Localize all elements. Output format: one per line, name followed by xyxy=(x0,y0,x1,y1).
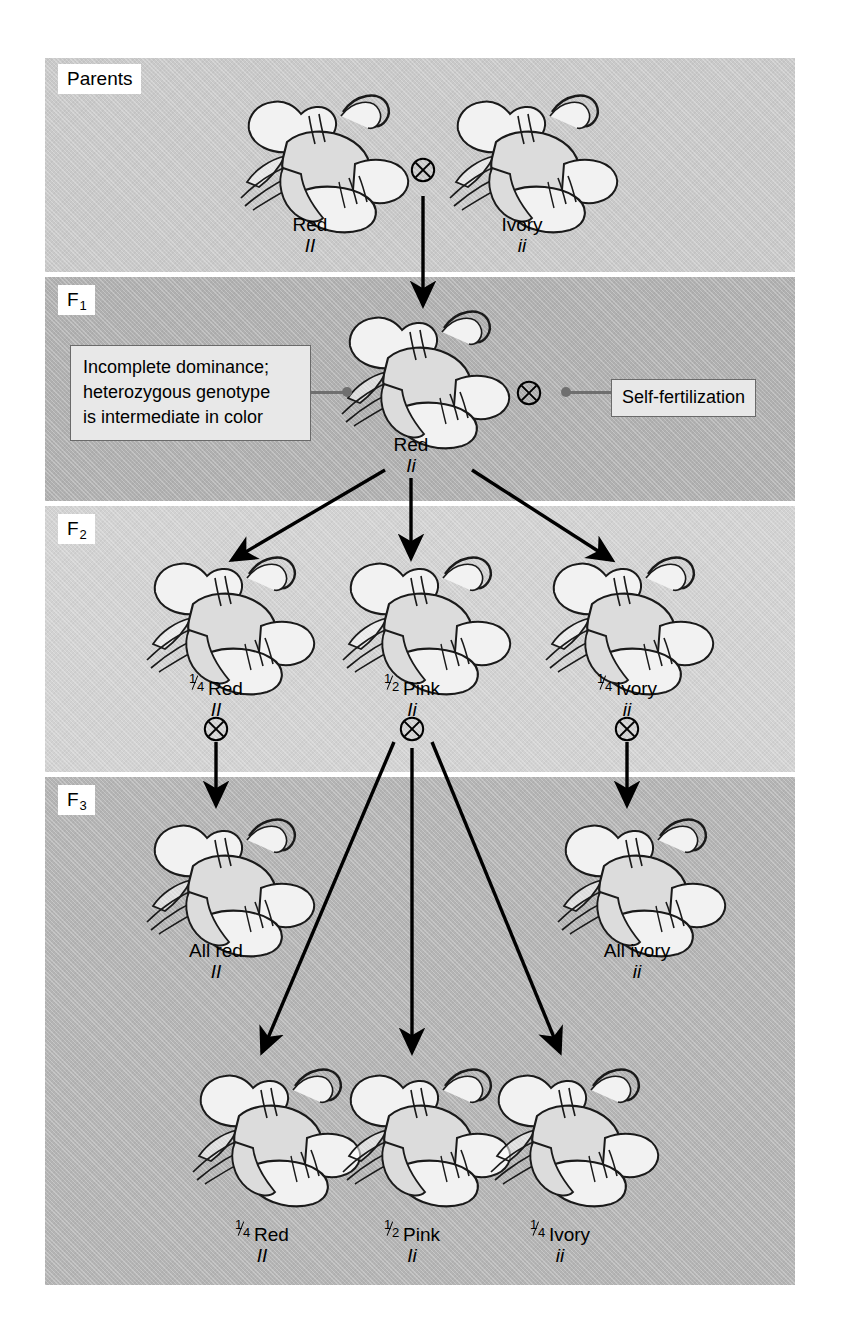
fraction-one-quarter: 14 xyxy=(235,1222,252,1241)
caption-f2-red: 14Red II xyxy=(189,676,243,720)
fraction-denominator: 2 xyxy=(392,680,399,693)
generation-label-f3-text: F xyxy=(67,789,79,810)
caption-parent-ivory-phenotype: Ivory xyxy=(501,214,542,235)
generation-label-f2-text: F xyxy=(67,518,79,539)
callout-self-fertilization-text: Self-fertilization xyxy=(622,387,745,407)
caption-f2-pink: 12Pink Ii xyxy=(384,676,440,720)
caption-parent-red: Red II xyxy=(293,214,328,256)
callout-incomplete-dominance-line-3: is intermediate in color xyxy=(83,405,298,430)
generation-label-f3: F3 xyxy=(58,785,95,815)
caption-parent-ivory-genotype: ii xyxy=(501,235,542,256)
generation-label-f1: F1 xyxy=(58,285,95,315)
caption-f2-pink-phenotype: 12Pink xyxy=(384,676,440,699)
caption-f3-red-phenotype: 14Red xyxy=(235,1222,289,1245)
cross-symbol-f1-self xyxy=(516,380,542,406)
caption-f1-red: Red Ii xyxy=(394,434,429,476)
callout-incomplete-dominance-line-2: heterozygous genotype xyxy=(83,380,298,405)
fraction-denominator: 4 xyxy=(197,680,204,693)
callout-leader-incomplete-dominance xyxy=(311,391,345,394)
fraction-denominator: 4 xyxy=(243,1226,250,1239)
cross-symbol-f2-ivory-self xyxy=(614,716,640,742)
callout-leader-self-fertilization xyxy=(567,391,612,394)
fraction-one-quarter: 14 xyxy=(189,676,206,695)
caption-f3-all-red-genotype: II xyxy=(189,961,243,982)
callout-self-fertilization: Self-fertilization xyxy=(611,379,756,417)
generation-label-f2: F2 xyxy=(58,514,95,544)
fraction-denominator: 4 xyxy=(605,680,612,693)
cross-symbol-f2-red-self xyxy=(203,716,229,742)
caption-f3-ivory-genotype: ii xyxy=(530,1245,590,1266)
fraction-one-quarter: 14 xyxy=(530,1222,547,1241)
flower-f3-ivory: .petal{fill:#f2f2f2;} .petal-dark{fill:#… xyxy=(481,1060,671,1215)
callout-incomplete-dominance: Incomplete dominance; heterozygous genot… xyxy=(70,345,311,441)
fraction-one-half: 12 xyxy=(384,1222,401,1241)
caption-f3-all-red: All red II xyxy=(189,940,243,982)
caption-f3-pink-phenotype: 12Pink xyxy=(384,1222,440,1245)
fraction-one-quarter: 14 xyxy=(597,676,614,695)
caption-f2-ivory-phenotype: 14Ivory xyxy=(597,676,657,699)
generation-label-f1-sub: 1 xyxy=(80,298,87,313)
caption-f3-all-ivory-phenotype: All ivory xyxy=(604,940,671,961)
caption-f2-ivory-label: Ivory xyxy=(616,678,657,699)
caption-f3-red-genotype: II xyxy=(235,1245,289,1266)
caption-f3-ivory: 14Ivory ii xyxy=(530,1222,590,1266)
cross-symbol-parents xyxy=(410,157,436,183)
fraction-one-half: 12 xyxy=(384,676,401,695)
fraction-denominator: 2 xyxy=(392,1226,399,1239)
caption-f2-ivory: 14Ivory ii xyxy=(597,676,657,720)
caption-f3-all-ivory: All ivory ii xyxy=(604,940,671,982)
callout-dot-incomplete-dominance xyxy=(342,387,352,397)
caption-parent-ivory: Ivory ii xyxy=(501,214,542,256)
caption-f2-red-phenotype: 14Red xyxy=(189,676,243,699)
caption-f2-pink-label: Pink xyxy=(403,678,440,699)
caption-f3-red-label: Red xyxy=(254,1224,289,1245)
fraction-denominator: 4 xyxy=(538,1226,545,1239)
generation-label-f1-text: F xyxy=(67,289,79,310)
caption-f3-ivory-label: Ivory xyxy=(549,1224,590,1245)
caption-f3-red: 14Red II xyxy=(235,1222,289,1266)
caption-f3-all-red-phenotype: All red xyxy=(189,940,243,961)
caption-f3-pink-genotype: Ii xyxy=(384,1245,440,1266)
caption-f3-ivory-phenotype: 14Ivory xyxy=(530,1222,590,1245)
caption-f3-all-ivory-genotype: ii xyxy=(604,961,671,982)
cross-symbol-f2-pink-self xyxy=(399,716,425,742)
caption-f1-phenotype: Red xyxy=(394,434,429,455)
caption-f3-pink: 12Pink Ii xyxy=(384,1222,440,1266)
caption-parent-red-genotype: II xyxy=(293,235,328,256)
caption-f2-red-label: Red xyxy=(208,678,243,699)
callout-incomplete-dominance-line-1: Incomplete dominance; xyxy=(83,355,298,380)
callout-dot-self-fertilization xyxy=(561,387,571,397)
caption-f3-pink-label: Pink xyxy=(403,1224,440,1245)
figure-canvas: Parents F1 F2 F3 xyxy=(0,0,841,1328)
generation-label-parents-text: Parents xyxy=(67,68,132,89)
caption-f1-genotype: Ii xyxy=(394,455,429,476)
generation-label-parents: Parents xyxy=(58,64,141,94)
generation-label-f2-sub: 2 xyxy=(80,527,87,542)
generation-label-f3-sub: 3 xyxy=(80,798,87,813)
caption-parent-red-phenotype: Red xyxy=(293,214,328,235)
